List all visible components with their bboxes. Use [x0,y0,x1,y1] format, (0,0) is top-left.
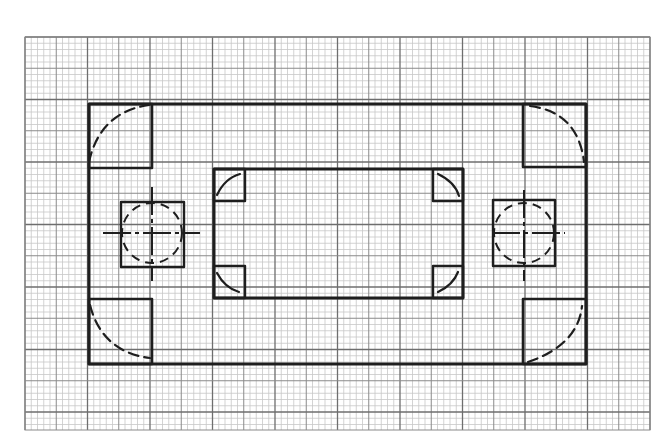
graph-paper-drawing [0,0,670,446]
corner-box-bottom-right [523,299,586,364]
corner-box-top-left [89,104,152,168]
corner-radius-arc-top-right [530,106,584,162]
corner-radius-arc-bottom-right [528,306,582,362]
corner-radius-arc-inner-top-left [217,174,240,195]
corner-box-bottom-left [89,299,152,364]
drawing-canvas [0,0,670,446]
corner-radius-arc-inner-bottom-left [217,273,239,292]
corner-radius-arc-inner-bottom-right [438,272,458,292]
inner-cutout-rectangle [214,169,463,298]
